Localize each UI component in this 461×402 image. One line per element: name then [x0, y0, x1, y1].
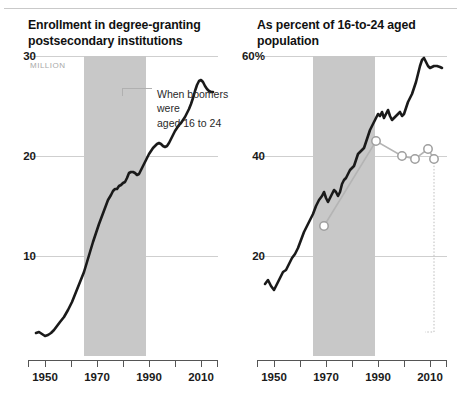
panel-enrollment-count: Enrollment in degree-granting postsecond…	[0, 0, 232, 402]
x-tick-left-1960	[71, 360, 72, 367]
unit-label-million: MILLION	[30, 61, 66, 70]
annotation-leader-horizontal-left	[122, 88, 152, 89]
x-label-right-1950: 1950	[261, 371, 287, 383]
x-tick-right-2000	[404, 360, 405, 367]
x-label-left-1990: 1990	[136, 371, 162, 383]
y-tick-right-40: 40	[252, 150, 265, 162]
x-label-left-1950: 1950	[32, 371, 58, 383]
x-tick-right-1970	[326, 360, 327, 367]
x-axis-right	[257, 360, 447, 368]
annotation-leader-vertical-left	[122, 88, 123, 96]
x-tick-right-1990	[378, 360, 379, 367]
x-tick-right-start	[257, 360, 258, 367]
x-tick-right-1960	[300, 360, 301, 367]
y-tick-right-60: 60%	[242, 50, 265, 62]
x-tick-right-1980	[352, 360, 353, 367]
x-tick-left-start	[28, 360, 29, 367]
x-label-left-1970: 1970	[84, 371, 110, 383]
x-tick-left-1970	[97, 360, 98, 367]
x-tick-left-end	[217, 360, 218, 367]
x-tick-left-1980	[123, 360, 124, 367]
x-tick-right-end	[446, 360, 447, 367]
y-tick-left-20: 20	[23, 150, 36, 162]
enrollment-percent-line	[257, 56, 447, 356]
panel-enrollment-percent: As percent of 16-to-24 aged population	[229, 0, 461, 402]
plot-area-right	[257, 56, 447, 356]
chart-page: Enrollment in degree-granting postsecond…	[0, 0, 461, 402]
x-tick-left-2000	[175, 360, 176, 367]
y-tick-left-10: 10	[23, 250, 36, 262]
y-tick-right-20: 20	[252, 250, 265, 262]
x-tick-right-2010	[430, 360, 431, 367]
x-label-right-1970: 1970	[313, 371, 339, 383]
x-label-right-1990: 1990	[365, 371, 391, 383]
x-tick-left-1950	[45, 360, 46, 367]
panel-title-right: As percent of 16-to-24 aged population	[257, 17, 453, 49]
panel-title-left: Enrollment in degree-granting postsecond…	[28, 17, 224, 49]
x-tick-left-1990	[149, 360, 150, 367]
x-label-left-2010: 2010	[188, 371, 214, 383]
x-axis-left	[28, 360, 218, 368]
x-label-right-2010: 2010	[417, 371, 443, 383]
x-tick-right-1950	[274, 360, 275, 367]
x-tick-left-2010	[201, 360, 202, 367]
